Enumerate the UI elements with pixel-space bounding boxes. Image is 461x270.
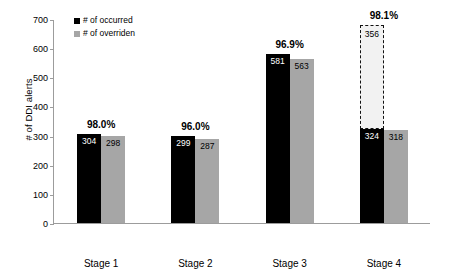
y-axis-tick-400: 400 [22, 103, 48, 112]
y-axis-tick-labels: 0100200300400500600700 [22, 14, 48, 230]
bar-value-occurred: 304 [77, 136, 101, 146]
legend-label: # of overriden [83, 29, 135, 38]
pct-label-stage-4: 98.1% [337, 10, 431, 21]
x-axis-label-stage-1: Stage 1 [54, 258, 148, 270]
y-axis-tick-700: 700 [22, 16, 48, 25]
bar-value-overridden: 287 [195, 141, 219, 151]
legend-item-1[interactable]: # of overriden [74, 29, 135, 38]
bar-group-stage-1: 30429898.0%Stage 1 [54, 20, 148, 223]
y-axis-tick-0: 0 [22, 220, 48, 229]
chart-legend: # of occurred# of overriden [74, 16, 135, 42]
bar-overridden-stage-1[interactable]: 298 [101, 136, 125, 223]
pct-label-stage-1: 98.0% [54, 119, 148, 130]
y-axis-tick-500: 500 [22, 74, 48, 83]
bar-value-overridden: 318 [384, 132, 408, 142]
pct-label-stage-3: 96.9% [243, 39, 337, 50]
bars-row: 30429898.0%Stage 1 [54, 20, 148, 223]
legend-item-0[interactable]: # of occurred [74, 16, 135, 25]
bar-group-stage-2: 29928796.0%Stage 2 [148, 20, 242, 223]
bar-occurred-stage-2[interactable]: 299 [171, 136, 195, 223]
x-axis-label-stage-4: Stage 4 [337, 258, 431, 270]
legend-swatch-icon [74, 31, 80, 37]
x-axis-label-stage-3: Stage 3 [243, 258, 337, 270]
bars-row: 58156396.9%Stage 3 [243, 20, 337, 223]
legend-label: # of occurred [83, 16, 133, 25]
bar-occurred-stage-3[interactable]: 581 [266, 54, 290, 223]
bars-row: 32435631898.1%Stage 4 [337, 20, 431, 223]
bar-value-overridden: 563 [290, 61, 314, 71]
bar-projected-stage-4[interactable]: 356 [360, 25, 384, 129]
bar-group-stage-4: 32435631898.1%Stage 4 [337, 20, 431, 223]
bar-group-stage-3: 58156396.9%Stage 3 [243, 20, 337, 223]
y-axis-tick-100: 100 [22, 190, 48, 199]
bar-value-projected: 356 [361, 29, 383, 39]
bar-overridden-stage-3[interactable]: 563 [290, 59, 314, 223]
plot-area: 30429898.0%Stage 129928796.0%Stage 25815… [53, 20, 430, 224]
legend-swatch-icon [74, 18, 80, 24]
y-axis-tick-200: 200 [22, 161, 48, 170]
y-axis-tick-mark [50, 224, 54, 225]
bars-row: 29928796.0%Stage 2 [148, 20, 242, 223]
bar-overridden-stage-4[interactable]: 318 [384, 130, 408, 223]
y-axis-tick-300: 300 [22, 132, 48, 141]
bar-overridden-stage-2[interactable]: 287 [195, 139, 219, 223]
bar-value-overridden: 298 [101, 138, 125, 148]
pct-label-stage-2: 96.0% [148, 121, 242, 132]
bar-occurred-stage-4[interactable]: 324 [360, 129, 384, 223]
x-axis-label-stage-2: Stage 2 [148, 258, 242, 270]
y-axis-tick-600: 600 [22, 45, 48, 54]
bar-value-occurred: 581 [266, 56, 290, 66]
bar-occurred-stage-1[interactable]: 304 [77, 134, 101, 223]
bar-value-occurred: 299 [171, 138, 195, 148]
bar-value-occurred: 324 [360, 131, 384, 141]
